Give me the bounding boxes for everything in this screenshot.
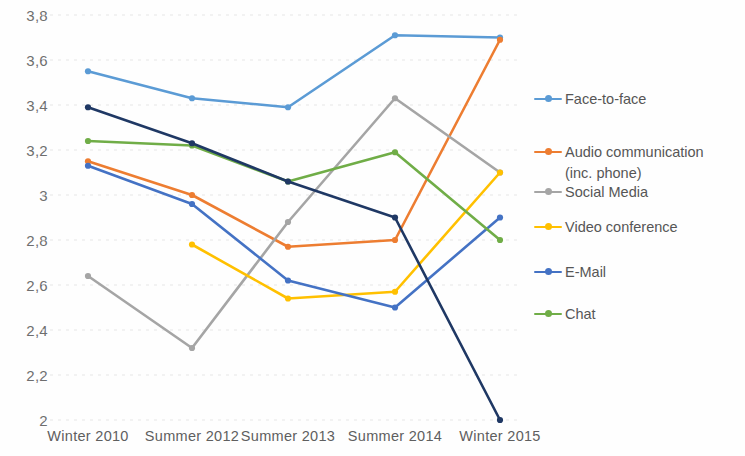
data-point-marker bbox=[285, 178, 291, 184]
data-point-marker bbox=[285, 295, 291, 301]
legend-color-swatch-icon bbox=[534, 221, 562, 233]
legend-color-swatch-icon bbox=[534, 93, 562, 105]
legend-item[interactable]: Chat bbox=[534, 304, 596, 325]
data-point-marker bbox=[85, 68, 91, 74]
data-point-marker bbox=[497, 37, 503, 43]
legend-item-label: Audio communication (inc. phone) bbox=[565, 142, 704, 184]
legend-color-swatch-icon bbox=[534, 308, 562, 320]
legend-item-label: E-Mail bbox=[565, 262, 606, 283]
legend-item-label: Face-to-face bbox=[565, 89, 646, 110]
series-lines bbox=[85, 32, 503, 423]
data-point-marker bbox=[497, 417, 503, 423]
data-point-marker bbox=[189, 140, 195, 146]
data-point-marker bbox=[85, 163, 91, 169]
data-point-marker bbox=[392, 304, 398, 310]
data-point-marker bbox=[392, 95, 398, 101]
data-point-marker bbox=[285, 219, 291, 225]
legend-item[interactable]: Social Media bbox=[534, 182, 648, 203]
data-point-marker bbox=[285, 104, 291, 110]
legend-item[interactable]: E-Mail bbox=[534, 262, 606, 283]
gridlines bbox=[42, 15, 522, 420]
data-point-marker bbox=[189, 192, 195, 198]
data-point-marker bbox=[497, 169, 503, 175]
data-point-marker bbox=[85, 104, 91, 110]
data-point-marker bbox=[392, 237, 398, 243]
series-line bbox=[88, 98, 500, 348]
legend-item[interactable]: Face-to-face bbox=[534, 89, 646, 110]
data-point-marker bbox=[285, 277, 291, 283]
data-point-marker bbox=[189, 241, 195, 247]
legend-color-swatch-icon bbox=[534, 266, 562, 278]
data-point-marker bbox=[85, 138, 91, 144]
data-point-marker bbox=[189, 345, 195, 351]
series-line bbox=[88, 35, 500, 107]
data-point-marker bbox=[189, 95, 195, 101]
data-point-marker bbox=[392, 214, 398, 220]
legend-item[interactable]: Audio communication (inc. phone) bbox=[534, 142, 704, 184]
series-line bbox=[192, 173, 500, 299]
data-point-marker bbox=[85, 273, 91, 279]
series-line bbox=[88, 107, 500, 420]
legend-color-swatch-icon bbox=[534, 146, 562, 158]
data-point-marker bbox=[189, 201, 195, 207]
line-chart: 22,22,42,62,833,23,43,63,8 Winter 2010Su… bbox=[0, 0, 745, 456]
data-point-marker bbox=[285, 244, 291, 250]
data-point-marker bbox=[392, 32, 398, 38]
data-point-marker bbox=[497, 214, 503, 220]
data-point-marker bbox=[392, 149, 398, 155]
data-point-marker bbox=[392, 289, 398, 295]
legend-item-label: Chat bbox=[565, 304, 596, 325]
legend-item-label: Video conference bbox=[565, 217, 678, 238]
legend-color-swatch-icon bbox=[534, 186, 562, 198]
legend-item[interactable]: Video conference bbox=[534, 217, 678, 238]
legend-item-label: Social Media bbox=[565, 182, 648, 203]
data-point-marker bbox=[497, 237, 503, 243]
